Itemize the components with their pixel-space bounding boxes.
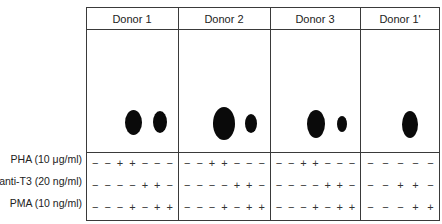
row-label-anti-t3: anti-T3 (20 ng/ml) [0, 174, 82, 188]
blot-band [307, 110, 325, 138]
plus-sign: + [395, 178, 407, 192]
minus-sign: − [380, 178, 392, 192]
condition-row-donor_1_prime-pha: −−−−− [361, 152, 440, 174]
minus-sign: − [181, 156, 193, 170]
minus-sign: − [114, 178, 126, 192]
minus-sign: − [206, 200, 218, 214]
condition-row-donor_2-anti-t3: −−−−++− [179, 174, 270, 196]
condition-row-donor_3-pma: −−−+−++ [271, 196, 360, 218]
minus-sign: − [285, 156, 297, 170]
minus-sign: − [395, 200, 407, 214]
plus-sign: + [206, 156, 218, 170]
minus-sign: − [322, 156, 334, 170]
minus-sign: − [89, 178, 101, 192]
minus-sign: − [425, 156, 437, 170]
condition-row-donor_1-anti-t3: −−−−++− [87, 174, 178, 196]
condition-row-donor_1-pma: −−−+−++ [87, 196, 178, 218]
minus-sign: − [194, 156, 206, 170]
minus-sign: − [102, 178, 114, 192]
minus-sign: − [334, 156, 346, 170]
plus-sign: + [256, 200, 268, 214]
condition-row-donor_3-pha: −−++−−− [271, 152, 360, 174]
plus-sign: + [243, 178, 255, 192]
plus-sign: + [322, 178, 334, 192]
minus-sign: − [218, 178, 230, 192]
plus-sign: + [334, 200, 346, 214]
condition-row-donor_2-pma: −−−+−++ [179, 196, 270, 218]
minus-sign: − [285, 178, 297, 192]
minus-sign: − [273, 156, 285, 170]
minus-sign: − [181, 200, 193, 214]
minus-sign: − [346, 178, 358, 192]
condition-row-donor_1-pha: −−++−−− [87, 152, 178, 174]
minus-sign: − [126, 178, 138, 192]
minus-sign: − [89, 200, 101, 214]
minus-sign: − [380, 200, 392, 214]
minus-sign: − [139, 156, 151, 170]
minus-sign: − [164, 156, 176, 170]
condition-row-donor_2-pha: −−++−−− [179, 152, 270, 174]
minus-sign: − [181, 178, 193, 192]
plus-sign: + [139, 178, 151, 192]
plus-sign: + [309, 156, 321, 170]
minus-sign: − [365, 178, 377, 192]
plus-sign: + [126, 156, 138, 170]
minus-sign: − [285, 200, 297, 214]
plus-sign: + [164, 200, 176, 214]
plus-sign: + [309, 200, 321, 214]
minus-sign: − [102, 156, 114, 170]
column-header-donor-2: Donor 2 [178, 8, 270, 29]
plus-sign: + [243, 200, 255, 214]
row-label-pha: PHA (10 μg/ml) [11, 152, 82, 166]
row-label-pma: PMA (10 ng/ml) [10, 196, 82, 210]
minus-sign: − [151, 156, 163, 170]
column-header-donor-3: Donor 3 [270, 8, 360, 29]
condition-row-donor_1_prime-anti-t3: −−++− [361, 174, 440, 196]
minus-sign: − [297, 178, 309, 192]
minus-sign: − [256, 178, 268, 192]
minus-sign: − [206, 178, 218, 192]
header-divider [86, 29, 440, 30]
minus-sign: − [380, 156, 392, 170]
plus-sign: + [151, 178, 163, 192]
minus-sign: − [114, 200, 126, 214]
plus-sign: + [218, 156, 230, 170]
minus-sign: − [273, 178, 285, 192]
blot-band [213, 107, 235, 140]
blot-band [245, 114, 257, 133]
minus-sign: − [231, 156, 243, 170]
blot-band [402, 111, 418, 138]
plus-sign: + [410, 178, 422, 192]
minus-sign: − [346, 156, 358, 170]
plus-sign: + [346, 200, 358, 214]
minus-sign: − [297, 200, 309, 214]
minus-sign: − [309, 178, 321, 192]
minus-sign: − [89, 156, 101, 170]
plus-sign: + [126, 200, 138, 214]
column-header-donor-1: Donor 1 [86, 8, 178, 29]
minus-sign: − [194, 178, 206, 192]
plus-sign: + [114, 156, 126, 170]
plus-sign: + [334, 178, 346, 192]
minus-sign: − [365, 156, 377, 170]
minus-sign: − [410, 156, 422, 170]
blot-band [125, 110, 142, 135]
minus-sign: − [139, 200, 151, 214]
blot-band [153, 111, 167, 133]
minus-sign: − [395, 156, 407, 170]
minus-sign: − [231, 200, 243, 214]
northern-blot-figure: Donor 1 Donor 2 Donor 3 Donor 1' PHA (10… [0, 0, 442, 224]
minus-sign: − [273, 200, 285, 214]
plus-sign: + [425, 200, 437, 214]
minus-sign: − [322, 200, 334, 214]
minus-sign: − [243, 156, 255, 170]
condition-row-donor_1_prime-pma: −−−++ [361, 196, 440, 218]
condition-row-donor_3-anti-t3: −−−−++− [271, 174, 360, 196]
minus-sign: − [256, 156, 268, 170]
blot-band [337, 116, 347, 132]
column-header-donor-1-prime: Donor 1' [360, 8, 440, 29]
plus-sign: + [297, 156, 309, 170]
minus-sign: − [102, 200, 114, 214]
minus-sign: − [194, 200, 206, 214]
plus-sign: + [231, 178, 243, 192]
